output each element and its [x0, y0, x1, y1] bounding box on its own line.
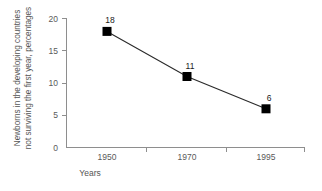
x-axis-title: Years [0, 168, 322, 178]
data-labels: 18 11 6 [105, 15, 271, 102]
x-axis-tick-labels: 1950 1970 1995 [98, 152, 276, 162]
y-axis-tick-labels: 20 15 10 5 0 [49, 14, 59, 153]
data-label-1995: 6 [267, 93, 272, 103]
y-tick-label-0: 0 [53, 143, 58, 153]
y-tick-label-15: 15 [49, 46, 59, 56]
y-tick-label-10: 10 [49, 78, 59, 88]
x-axis-ticks [147, 148, 305, 152]
x-tick-label-1950: 1950 [98, 152, 117, 162]
data-label-1970: 11 [186, 61, 195, 71]
data-label-1950: 18 [105, 15, 115, 25]
y-axis-ticks [62, 19, 67, 116]
x-axis-title-text: Years [79, 168, 100, 178]
chart-figure: Newborns in the developing countries not… [0, 0, 322, 191]
plot-area: 20 15 10 5 0 1950 1970 1995 18 [0, 0, 322, 191]
x-tick-label-1995: 1995 [257, 152, 276, 162]
data-marker-1970[interactable] [183, 72, 192, 81]
data-marker-1950[interactable] [103, 27, 112, 36]
data-marker-1995[interactable] [262, 104, 271, 113]
y-tick-label-20: 20 [49, 14, 59, 24]
x-tick-label-1970: 1970 [178, 152, 197, 162]
y-tick-label-5: 5 [53, 110, 58, 120]
